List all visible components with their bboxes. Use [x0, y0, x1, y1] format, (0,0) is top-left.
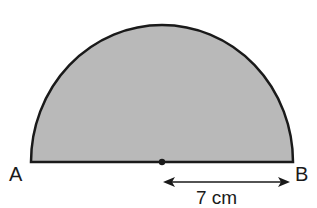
- radius-label: 7 cm: [196, 188, 237, 208]
- label-b: B: [295, 164, 308, 184]
- semicircle-shape: [31, 25, 293, 162]
- label-a: A: [9, 164, 22, 184]
- radius-arrow: [163, 177, 290, 187]
- semicircle-diagram: [0, 0, 317, 208]
- center-dot: [159, 159, 165, 165]
